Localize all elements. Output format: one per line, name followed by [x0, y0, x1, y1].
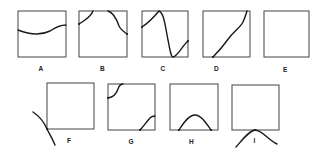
- panel-c-label: C: [161, 65, 166, 72]
- panel-d-label: D: [214, 65, 219, 72]
- panel-f: F: [33, 83, 94, 145]
- panel-b-point: [78, 23, 80, 25]
- panel-a-label: A: [39, 65, 44, 72]
- panel-g-point: [139, 129, 141, 131]
- curve-box-figure: A B C D E F G: [0, 0, 327, 153]
- panel-b-box: [79, 11, 127, 57]
- panel-c: C: [141, 11, 189, 72]
- panel-h-point: [178, 129, 180, 131]
- panel-i-point: [254, 129, 256, 131]
- panel-e: E: [264, 11, 309, 73]
- panel-f-label: F: [67, 137, 71, 144]
- panel-a-curve: [18, 25, 66, 34]
- panel-i-label: I: [254, 137, 256, 144]
- panel-f-box: [47, 83, 94, 129]
- panel-b-left-arc: [79, 11, 93, 24]
- panel-b-label: B: [100, 65, 105, 72]
- panel-d: D: [203, 11, 250, 72]
- panel-h-box: [170, 84, 218, 130]
- panel-c-point: [187, 40, 189, 42]
- panel-d-point: [212, 56, 214, 58]
- panel-g-bottom-arc: [140, 116, 155, 130]
- panel-c-point: [141, 26, 143, 28]
- panel-e-label: E: [283, 66, 288, 73]
- panel-h-point: [210, 129, 212, 131]
- panel-d-box: [203, 11, 250, 57]
- panel-g-top-arc: [108, 84, 123, 98]
- panel-b: B: [78, 11, 128, 72]
- panel-i-curve: [236, 130, 277, 147]
- panel-h-curve: [179, 115, 211, 130]
- panel-e-box: [264, 11, 309, 57]
- panel-f-point: [46, 128, 48, 130]
- panel-b-right-arc: [108, 11, 127, 34]
- panel-i-box: [232, 85, 279, 130]
- panel-a: A: [18, 11, 66, 72]
- panel-g-label: G: [129, 138, 134, 145]
- panel-g-box: [108, 84, 155, 130]
- panel-c-curve: [142, 11, 188, 57]
- panel-d-curve: [213, 11, 247, 57]
- panel-h-label: H: [189, 138, 194, 145]
- panel-g: G: [107, 84, 155, 145]
- panel-i: I: [232, 85, 279, 147]
- panel-g-point: [107, 97, 109, 99]
- panel-h: H: [170, 84, 218, 145]
- panel-b-point: [126, 33, 128, 35]
